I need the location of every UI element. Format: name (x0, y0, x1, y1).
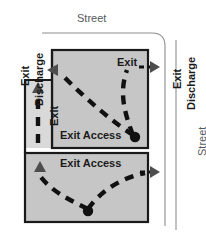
occupant-point-lower (83, 206, 93, 216)
exit-discharge-right-line1: Exit (171, 69, 183, 89)
egress-diagram-canvas (0, 0, 206, 244)
exit-upper-right-label: Exit (117, 56, 137, 68)
exit-corridor-label: Exit (48, 106, 60, 126)
occupant-point-upper (130, 132, 140, 142)
egress-diagram: Street Street Exit Discharge Exit Discha… (0, 0, 206, 244)
exit-access-label-lower: Exit Access (60, 157, 121, 169)
exit-discharge-left-line1: Exit (19, 66, 31, 86)
exit-discharge-right-line2: Discharge (185, 57, 197, 110)
street-label-right: Street (196, 127, 206, 156)
street-label-top: Street (77, 12, 106, 24)
exit-access-label-upper: Exit Access (60, 129, 121, 141)
exit-discharge-left-line2: Discharge (33, 53, 45, 106)
